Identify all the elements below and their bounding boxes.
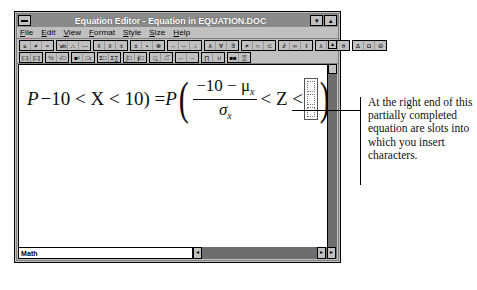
callout-text: At the right end of this partially compl… xyxy=(368,96,476,162)
toolbar-button-miscellaneous-symbols-1[interactable]: ∞ xyxy=(290,41,301,50)
toolbar-button-fence-templates-0[interactable]: (□) xyxy=(20,53,31,62)
vertical-scrollbar-thumb[interactable] xyxy=(328,64,337,74)
menu-item-size[interactable]: Size xyxy=(149,28,165,37)
toolbar-button-spaces-and-ellipses-2[interactable]: ⋯ xyxy=(79,41,90,50)
toolbar-group-fence-templates[interactable]: (□)[□] xyxy=(19,52,43,63)
toolbar-button-relational-symbols-1[interactable]: ≠ xyxy=(31,41,42,50)
toolbar-button-greek-lowercase-0[interactable]: λ xyxy=(316,41,327,50)
menu-item-edit[interactable]: Edit xyxy=(41,28,55,37)
toolbar-button-logical-symbols-0[interactable]: ∧ xyxy=(205,41,216,50)
toolbar-group-underbar-overbar-templates[interactable]: □̲□̅ xyxy=(149,52,173,63)
toolbar-button-operator-symbols-1[interactable]: • xyxy=(142,41,153,50)
toolbar-button-product-set-theory-templates-1[interactable]: ∪ xyxy=(213,53,224,62)
toolbar-group-greek-uppercase[interactable]: ΔΩΘ xyxy=(352,40,387,51)
toolbar-row-symbols: ≤≠≈˙ab∴⋯x̃x̂x̀±•⊗→⇔↓∧∀∃≠∩⊂∂∞ℓλωθΔΩΘ xyxy=(19,40,326,51)
hscroll-track[interactable] xyxy=(202,247,317,259)
menu-rest-format: ormat xyxy=(94,28,115,37)
toolbar-group-spaces-and-ellipses[interactable]: ˙ab∴⋯ xyxy=(56,40,91,51)
toolbar-group-integral-templates[interactable]: ∫□∮□ xyxy=(123,52,147,63)
empty-slot[interactable] xyxy=(307,107,315,118)
toolbar-button-arrow-symbols-2[interactable]: ↓ xyxy=(190,41,201,50)
toolbar-button-miscellaneous-symbols-0[interactable]: ∂ xyxy=(279,41,290,50)
toolbar-group-labeled-arrow-templates[interactable]: ←→ xyxy=(175,52,199,63)
minimize-button[interactable]: ▾ xyxy=(310,15,323,26)
toolbar-button-summation-templates-1[interactable]: Σ∑ xyxy=(109,53,120,62)
toolbar-button-spaces-and-ellipses-0[interactable]: ˙ab xyxy=(57,41,68,50)
toolbar-group-subscript-superscript-templates[interactable]: ■¹□ı xyxy=(71,52,95,63)
toolbar-group-fraction-radical-templates[interactable]: ½√□ xyxy=(45,52,69,63)
empty-slot[interactable] xyxy=(307,81,315,92)
toolbar-button-integral-templates-1[interactable]: ∮□ xyxy=(135,53,146,62)
toolbar-group-embellishments[interactable]: x̃x̂x̀ xyxy=(93,40,128,51)
toolbar-scroll-up-button[interactable]: ▴ xyxy=(328,40,337,49)
toolbar-button-logical-symbols-1[interactable]: ∀ xyxy=(216,41,227,50)
menu-item-format[interactable]: Format xyxy=(89,28,115,37)
toolbar-button-greek-uppercase-0[interactable]: Δ xyxy=(353,41,364,50)
toolbar-group-logical-symbols[interactable]: ∧∀∃ xyxy=(204,40,239,51)
toolbar-button-set-theory-symbols-2[interactable]: ⊂ xyxy=(264,41,275,50)
window-controls: ▾ ▴ xyxy=(310,15,337,26)
toolbar-group-operator-symbols[interactable]: ±•⊗ xyxy=(130,40,165,51)
maximize-button[interactable]: ▴ xyxy=(324,15,337,26)
toolbar-button-set-theory-symbols-0[interactable]: ≠ xyxy=(242,41,253,50)
toolbar-button-product-set-theory-templates-0[interactable]: ∏ xyxy=(202,53,213,62)
toolbar-button-underbar-overbar-templates-0[interactable]: □̲ xyxy=(150,53,161,62)
toolbar-button-matrix-templates-0[interactable]: ■■ xyxy=(228,53,239,62)
toolbar-button-integral-templates-0[interactable]: ∫□ xyxy=(124,53,135,62)
menu-item-view[interactable]: View xyxy=(64,28,82,37)
toolbar-group-arrow-symbols[interactable]: →⇔↓ xyxy=(167,40,202,51)
hscroll-right-button-2[interactable]: ▸ xyxy=(327,247,336,259)
equation-expr-before: −10 < X < 10) = xyxy=(39,88,166,110)
toolbar-button-greek-lowercase-2[interactable]: θ xyxy=(338,41,349,50)
toolbar-button-operator-symbols-2[interactable]: ⊗ xyxy=(153,41,164,50)
toolbar-button-embellishments-1[interactable]: x̂ xyxy=(105,41,116,50)
toolbar-button-summation-templates-0[interactable]: Σ□ xyxy=(98,53,109,62)
toolbar-button-set-theory-symbols-1[interactable]: ∩ xyxy=(253,41,264,50)
vertical-scrollbar[interactable] xyxy=(327,64,337,247)
toolbar-button-greek-uppercase-2[interactable]: Θ xyxy=(375,41,386,50)
toolbar-button-relational-symbols-0[interactable]: ≤ xyxy=(20,41,31,50)
menu-item-help[interactable]: Help xyxy=(173,28,190,37)
toolbar-group-matrix-templates[interactable]: ■■▒ xyxy=(227,52,251,63)
toolbar-button-fraction-radical-templates-1[interactable]: √□ xyxy=(57,53,68,62)
toolbar-group-relational-symbols[interactable]: ≤≠≈ xyxy=(19,40,54,51)
equation-comparison: < Z < xyxy=(260,88,303,110)
toolbar-button-labeled-arrow-templates-1[interactable]: → xyxy=(187,53,198,62)
toolbar-group-set-theory-symbols[interactable]: ≠∩⊂ xyxy=(241,40,276,51)
equation-canvas[interactable]: P −10 < X < 10) = P ( −10 − μx σx < Z < … xyxy=(18,64,327,247)
minimize-icon: ▾ xyxy=(311,16,322,25)
toolbar-button-logical-symbols-2[interactable]: ∃ xyxy=(227,41,238,50)
toolbar-button-miscellaneous-symbols-2[interactable]: ℓ xyxy=(301,41,312,50)
toolbar-button-relational-symbols-2[interactable]: ≈ xyxy=(42,41,53,50)
toolbar-button-arrow-symbols-1[interactable]: ⇔ xyxy=(179,41,190,50)
toolbar-button-arrow-symbols-0[interactable]: → xyxy=(168,41,179,50)
equation-fraction[interactable]: −10 − μx σx xyxy=(193,77,257,122)
maximize-icon: ▴ xyxy=(325,16,336,25)
toolbar-group-summation-templates[interactable]: Σ□Σ∑ xyxy=(97,52,121,63)
hscroll-right-button[interactable]: ▸ xyxy=(317,247,326,259)
toolbar-button-matrix-templates-1[interactable]: ▒ xyxy=(239,53,250,62)
toolbar-button-underbar-overbar-templates-1[interactable]: □̅ xyxy=(161,53,172,62)
menu-item-file[interactable]: File xyxy=(20,28,33,37)
toolbar-button-embellishments-2[interactable]: x̀ xyxy=(116,41,127,50)
menu-rest-style: tyle xyxy=(129,28,142,37)
menu-item-style[interactable]: Style xyxy=(123,28,141,37)
empty-slot[interactable] xyxy=(307,94,315,105)
toolbar-group-product-set-theory-templates[interactable]: ∏∪ xyxy=(201,52,225,63)
toolbar-button-fraction-radical-templates-0[interactable]: ½ xyxy=(46,53,57,62)
toolbar-button-spaces-and-ellipses-1[interactable]: ∴ xyxy=(68,41,79,50)
toolbar-button-labeled-arrow-templates-0[interactable]: ← xyxy=(176,53,187,62)
toolbar-group-miscellaneous-symbols[interactable]: ∂∞ℓ xyxy=(278,40,313,51)
toolbar-button-operator-symbols-0[interactable]: ± xyxy=(131,41,142,50)
toolbar-button-subscript-superscript-templates-1[interactable]: □ı xyxy=(83,53,94,62)
toolbar-button-greek-uppercase-1[interactable]: Ω xyxy=(364,41,375,50)
system-menu-icon[interactable] xyxy=(18,15,31,26)
empty-slot-stack[interactable] xyxy=(304,78,318,120)
hscroll-left-button[interactable]: ◂ xyxy=(193,247,202,259)
fraction-denominator: σx xyxy=(216,100,235,122)
toolbar-button-embellishments-0[interactable]: x̃ xyxy=(94,41,105,50)
toolbar-button-subscript-superscript-templates-0[interactable]: ■¹ xyxy=(72,53,83,62)
equation-expression[interactable]: P −10 < X < 10) = P ( −10 − μx σx < Z < … xyxy=(27,77,327,122)
title-bar[interactable]: Equation Editor - Equation in EQUATION.D… xyxy=(17,14,338,27)
toolbar-button-fence-templates-1[interactable]: [□] xyxy=(31,53,42,62)
